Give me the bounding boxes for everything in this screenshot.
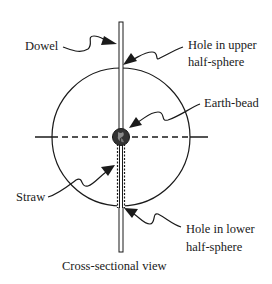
dowel-label: Dowel (25, 39, 58, 54)
straw-label: Straw (16, 190, 45, 205)
earth-bead-label: Earth-bead (204, 96, 259, 111)
upper-hole-label-line1: Hole in upper (188, 38, 257, 53)
straw (117, 144, 125, 208)
lower-hole-label-line2: half-sphere (186, 240, 242, 255)
earth-bead (113, 129, 130, 146)
lower-hole-label-line1: Hole in lower (186, 222, 255, 237)
straw-callout-arrow (48, 165, 115, 197)
upper-hole-callout-arrow (123, 47, 183, 65)
dowel-callout-arrow (63, 36, 117, 51)
lower-hole-callout-arrow (124, 208, 181, 227)
diagram-caption: Cross-sectional view (62, 259, 167, 274)
upper-hole-label-line2: half-sphere (188, 55, 244, 70)
